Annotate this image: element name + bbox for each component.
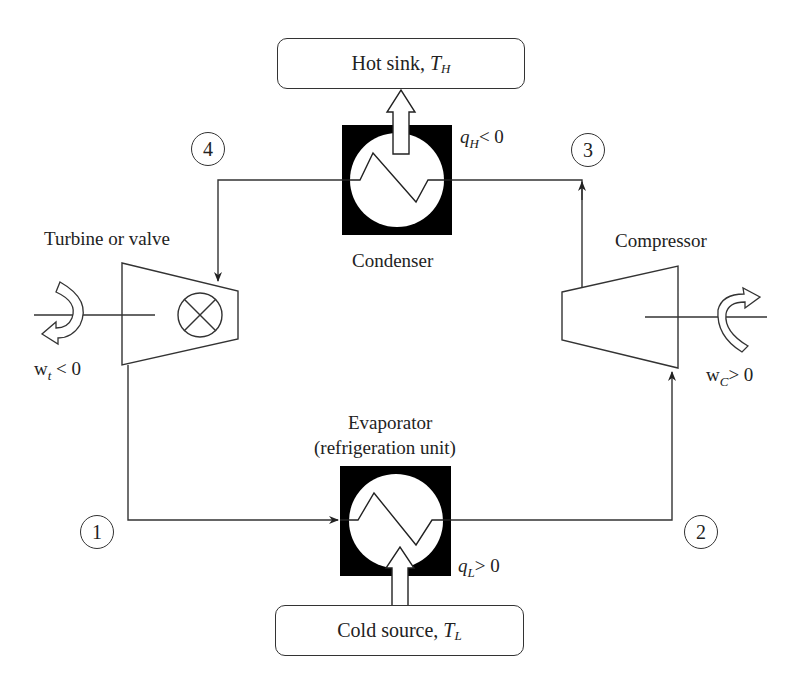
flow-line-4-to-1 — [128, 365, 338, 520]
compressor-label: Compressor — [615, 230, 707, 252]
cold-source-symbol: T — [443, 619, 454, 642]
cold-source-subscript: L — [454, 628, 461, 644]
evaporator-label: Evaporator — [348, 412, 432, 434]
q-cold-symbol: q — [458, 555, 468, 576]
hot-sink-box: Hot sink, TH — [277, 38, 525, 89]
hot-sink-symbol: T — [430, 52, 441, 75]
turbine-work-relation: < 0 — [56, 358, 81, 379]
turbine-work-arrow-icon — [42, 282, 83, 344]
compressor-work-relation: > 0 — [728, 364, 753, 385]
turbine-label: Turbine or valve — [44, 228, 170, 250]
turbine-work-label: wt < 0 — [34, 358, 81, 380]
q-cold-relation: > 0 — [475, 555, 500, 576]
q-hot-symbol: q — [460, 126, 470, 147]
state-point-3: 3 — [571, 133, 605, 167]
q-hot-label: qH< 0 — [460, 126, 504, 148]
q-cold-label: qL> 0 — [458, 555, 500, 577]
compressor-icon — [562, 266, 767, 368]
compressor-work-arrow-icon — [718, 288, 760, 352]
flow-line-2-to-3 — [452, 180, 582, 288]
cycle-diagram-canvas — [0, 0, 800, 687]
turbine-work-subscript: t — [48, 368, 52, 383]
flow-line-1-to-2 — [451, 372, 672, 520]
flow-line-3-to-4 — [218, 180, 342, 281]
evaporator-sublabel: (refrigeration unit) — [314, 437, 456, 459]
state-point-2: 2 — [684, 515, 718, 549]
q-cold-subscript: L — [468, 565, 475, 580]
hot-sink-subscript: H — [441, 61, 450, 77]
turbine-valve-icon — [34, 263, 238, 365]
state-point-1: 1 — [80, 515, 114, 549]
q-hot-subscript: H — [470, 136, 479, 151]
state-point-4: 4 — [191, 132, 225, 166]
compressor-work-subscript: C — [720, 374, 729, 389]
q-hot-relation: < 0 — [479, 126, 504, 147]
turbine-work-symbol: w — [34, 358, 48, 379]
cold-source-label: Cold source, — [337, 619, 438, 642]
hot-sink-label: Hot sink, — [352, 52, 425, 75]
cold-source-box: Cold source, TL — [275, 605, 524, 656]
condenser-label: Condenser — [352, 250, 433, 272]
compressor-work-symbol: w — [706, 364, 720, 385]
compressor-work-label: wC> 0 — [706, 364, 753, 386]
